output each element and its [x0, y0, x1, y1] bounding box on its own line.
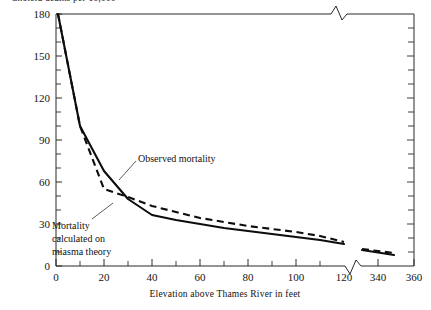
- x-tick-label-120: 120: [336, 271, 353, 283]
- x-tick-label-20: 20: [99, 271, 111, 283]
- series-observed-mortality: [58, 14, 344, 244]
- annotation-miasma-line-1: Mortality: [52, 220, 90, 231]
- annotation-miasma-line-3: miasma theory: [52, 246, 111, 257]
- cholera-mortality-line-chart: 0 30 60 90 120 150 180 0: [0, 0, 431, 310]
- x-tick-label-340: 340: [370, 271, 387, 283]
- y-tick-label-120: 120: [34, 92, 51, 104]
- top-frame-break: [331, 6, 347, 20]
- x-tick-label-80: 80: [243, 271, 255, 283]
- y-tick-label-180: 180: [34, 8, 51, 20]
- y-tick-label-150: 150: [34, 50, 51, 62]
- plot-frame: [56, 6, 414, 274]
- annotation-miasma-theory: Mortality calculated on miasma theory: [52, 203, 113, 257]
- x-tick-label-360: 360: [406, 271, 423, 283]
- x-tick-label-0: 0: [53, 271, 59, 283]
- x-tick-label-60: 60: [195, 271, 207, 283]
- chart-root: Cholera deaths per 10,000: [0, 0, 431, 310]
- x-tick-label-100: 100: [288, 271, 305, 283]
- x-axis-tick-labels: 0 20 40 60 80 100 120 340 360: [53, 271, 423, 283]
- series-miasma-calculated: [58, 14, 344, 242]
- annotation-leader-observed: [119, 161, 136, 180]
- chart-title: Cholera deaths per 10,000: [11, 0, 116, 3]
- annotation-leader-miasma: [92, 203, 113, 219]
- annotation-miasma-line-2: calculated on: [52, 233, 105, 244]
- annotation-observed-label: Observed mortality: [138, 153, 215, 164]
- annotation-observed-mortality: Observed mortality: [119, 153, 215, 180]
- y-axis-right-ticks: [407, 28, 414, 252]
- y-tick-label-0: 0: [45, 260, 51, 272]
- x-axis-title: Elevation above Thames River in feet: [150, 289, 301, 299]
- x-tick-label-40: 40: [147, 271, 159, 283]
- y-tick-label-90: 90: [39, 134, 51, 146]
- y-tick-label-60: 60: [39, 176, 51, 188]
- y-tick-label-30: 30: [39, 218, 51, 230]
- y-axis-tick-labels: 0 30 60 90 120 150 180: [34, 8, 51, 272]
